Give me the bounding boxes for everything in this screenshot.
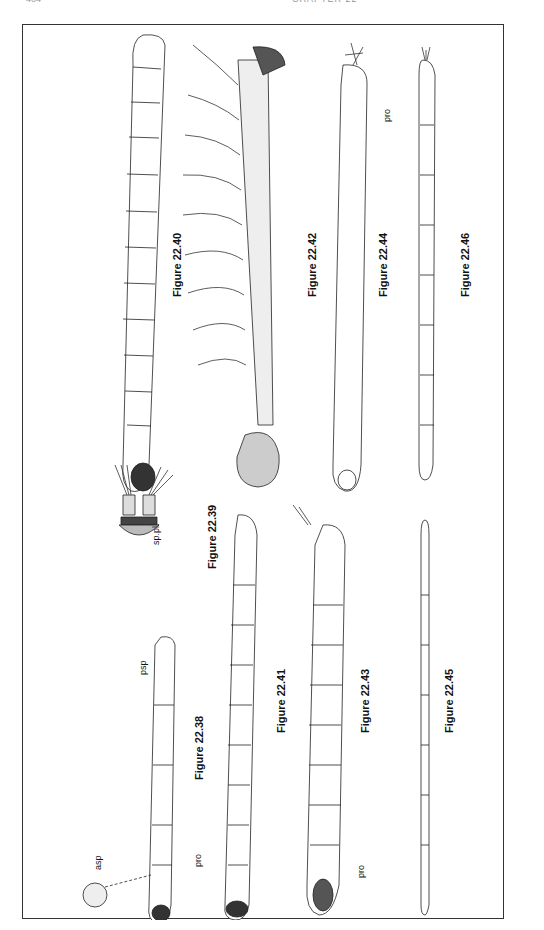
figure-label-22-38: Figure 22.38 (193, 716, 205, 780)
figure-label-22-45: Figure 22.45 (443, 669, 455, 733)
larva-22-40 (123, 35, 165, 492)
annotation-pro-22-43: pro (356, 865, 366, 878)
annotation-sp-pl: sp.pl. (151, 523, 161, 545)
figure-plate: Figure 22.40 Figure 22.42 Figure 22.44 F… (22, 24, 504, 919)
larva-22-43 (293, 505, 345, 915)
page-header: 404 CHAPTER 22 (0, 0, 544, 8)
larva-22-46 (419, 47, 435, 480)
larva-22-41 (225, 515, 257, 920)
larva-22-42 (183, 45, 285, 487)
figure-label-22-39: Figure 22.39 (206, 505, 218, 569)
larva-22-44 (333, 43, 367, 491)
figure-label-22-40: Figure 22.40 (171, 233, 183, 297)
plate-drawings: Figure 22.40 Figure 22.42 Figure 22.44 F… (23, 25, 503, 918)
running-head: CHAPTER 22 (292, 0, 358, 4)
annotation-pro-22-38: pro (193, 854, 203, 867)
page-number: 404 (26, 0, 41, 4)
figure-label-22-43: Figure 22.43 (359, 669, 371, 733)
annotation-asp: asp (93, 855, 103, 870)
larva-22-38 (83, 637, 175, 920)
figure-label-22-46: Figure 22.46 (459, 233, 471, 297)
larva-22-45 (421, 520, 429, 915)
larva-illustrations (23, 25, 505, 920)
annotation-pro-22-44: pro (382, 109, 392, 122)
figure-label-22-41: Figure 22.41 (275, 669, 287, 733)
figure-label-22-44: Figure 22.44 (377, 233, 389, 297)
figure-label-22-42: Figure 22.42 (306, 233, 318, 297)
annotation-psp: psp (138, 660, 148, 675)
